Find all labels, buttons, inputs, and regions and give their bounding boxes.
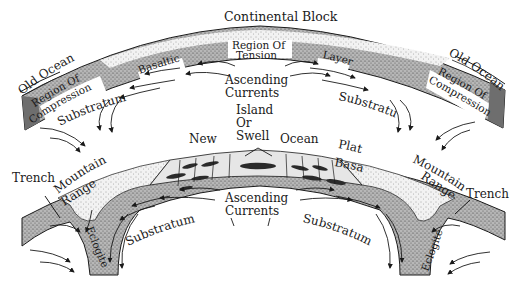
label-trench-right: Trench: [466, 187, 509, 201]
label-ascending-upper-2: Currents: [225, 86, 279, 100]
label-ascending-upper-1: Ascending: [224, 73, 289, 87]
diagram-canvas: Continental Block Old Ocean Old Ocean Re…: [0, 0, 513, 283]
label-new: New: [189, 132, 218, 146]
label-continental-block: Continental Block: [224, 9, 338, 24]
label-ocean: Ocean: [280, 132, 319, 146]
label-ascending-lower-2: Currents: [225, 204, 279, 218]
label-trench-left: Trench: [12, 171, 55, 185]
label-ascending-lower-1: Ascending: [224, 191, 289, 205]
label-substratum-lower-right: Substratum: [301, 211, 374, 248]
label-island: Island: [236, 103, 274, 117]
label-swell: Swell: [236, 129, 269, 143]
label-or: Or: [236, 116, 252, 130]
convection-diagram: Continental Block Old Ocean Old Ocean Re…: [0, 0, 513, 283]
label-tension-2: Tension: [236, 49, 277, 61]
